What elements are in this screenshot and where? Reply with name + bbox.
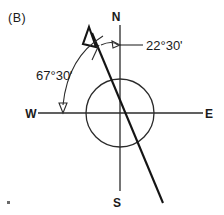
bearing-ray-line [92,33,163,203]
panel-label: (B) [8,11,26,25]
registration-dot [7,201,10,204]
angle-arc-north-arrowhead [112,41,120,48]
cardinal-label-north: N [112,10,121,24]
cardinal-label-west: W [25,107,37,121]
angle-label-from-west: 67°30' [36,68,73,83]
cardinal-label-east: E [205,107,213,121]
compass-bearing-figure: (B) 22°30' 67°30' N S E W [0,0,224,215]
cardinal-label-south: S [113,196,121,210]
angle-label-from-north: 22°30' [146,38,183,53]
